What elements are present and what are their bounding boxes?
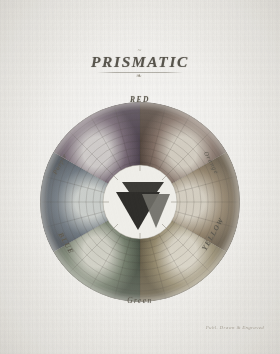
title-flourish-top-icon: ~ xyxy=(0,48,280,53)
colour-wheel xyxy=(38,100,242,304)
colour-wheel-svg xyxy=(38,100,242,304)
page-title: PRISMATIC xyxy=(0,53,280,71)
title-flourish-bottom-icon: ❧ xyxy=(0,73,280,80)
prismatic-plate: ~ PRISMATIC ❧ xyxy=(0,0,280,354)
engraver-signature: Publ. Drawn & Engraved xyxy=(206,325,264,330)
title-rule-divider xyxy=(97,72,183,73)
plate-title-block: ~ PRISMATIC ❧ xyxy=(0,48,280,80)
